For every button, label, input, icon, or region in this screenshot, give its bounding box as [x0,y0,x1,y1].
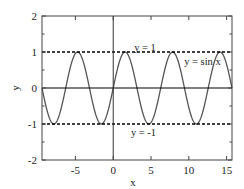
y-tick-label: 2 [32,10,38,22]
x-tick-label: 0 [110,164,116,176]
x-tick-label: 5 [148,164,154,176]
x-tick-label: -5 [71,164,81,176]
annotation-label: y = sin x [184,56,221,67]
labels: -5051015-2-1012xyy = 1y = sin xy = -1 [9,10,233,188]
annotation-label: y = 1 [134,42,156,53]
sine-chart: -5051015-2-1012xyy = 1y = sin xy = -1 [0,0,244,189]
y-tick-label: -2 [28,154,37,166]
y-tick-label: 1 [32,46,38,58]
x-axis-label: x [130,176,136,188]
y-tick-label: -1 [28,118,37,130]
x-tick-label: 15 [221,164,233,176]
y-tick-label: 0 [32,82,38,94]
x-tick-label: 10 [183,164,195,176]
annotation-label: y = -1 [131,127,156,138]
y-axis-label: y [9,85,21,91]
